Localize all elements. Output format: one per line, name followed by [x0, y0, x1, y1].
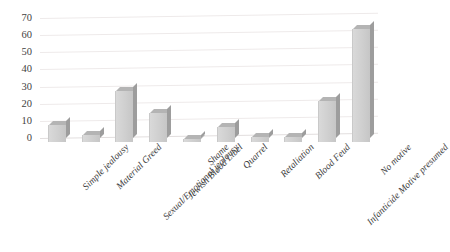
x-axis: Simple jealousyMaterial GreedSexual/Emot… — [40, 142, 378, 250]
bar[interactable] — [48, 125, 66, 142]
bar[interactable] — [149, 113, 167, 142]
x-axis-tick-label: Blood Feud — [313, 142, 352, 181]
y-axis-tick-label: 30 — [22, 81, 33, 92]
bar[interactable] — [318, 101, 336, 142]
x-axis-tick-label: No motive — [379, 142, 413, 176]
bar-series — [40, 22, 378, 142]
plot-area — [40, 18, 378, 142]
x-axis-tick-label: Retaliation — [278, 142, 315, 179]
bar-slot — [243, 22, 277, 142]
bar-slot — [108, 22, 142, 142]
bar-slot — [175, 22, 209, 142]
gridline — [40, 13, 378, 19]
bar[interactable] — [217, 127, 235, 142]
y-axis-tick-label: 70 — [22, 13, 33, 24]
bar-slot — [277, 22, 311, 142]
y-axis-tick-label: 40 — [22, 64, 33, 75]
x-axis-tick-label: Infanticide Motive presumed — [366, 142, 450, 227]
bar[interactable] — [82, 135, 100, 142]
y-axis-tick-label: 10 — [22, 116, 33, 127]
bar-slot — [310, 22, 344, 142]
bar[interactable] — [115, 91, 133, 142]
bar-slot — [74, 22, 108, 142]
x-axis-tick-label: Quarrel — [241, 142, 269, 170]
y-axis-tick-label: 0 — [27, 133, 32, 144]
y-axis-tick-label: 60 — [22, 30, 33, 41]
bar[interactable] — [352, 29, 370, 142]
y-axis-tick-label: 20 — [22, 98, 33, 109]
y-axis-tick-label: 50 — [22, 47, 33, 58]
y-axis: 010203040506070 — [0, 18, 36, 142]
bar-slot — [40, 22, 74, 142]
bar-slot — [209, 22, 243, 142]
bar-slot — [141, 22, 175, 142]
bar-slot — [344, 22, 378, 142]
